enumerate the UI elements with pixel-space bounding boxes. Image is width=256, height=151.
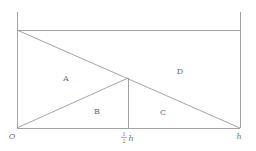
diagonal-lower-line <box>17 78 128 128</box>
region-label-d: D <box>177 67 183 76</box>
figure-outline <box>17 12 240 128</box>
midpoint-variable: h <box>128 134 133 143</box>
figure-internal-lines <box>17 30 240 128</box>
midpoint-numerator: 1 <box>122 131 125 137</box>
origin-label: O <box>9 132 16 141</box>
midpoint-label: 1 2 h <box>121 131 134 144</box>
axis-labels: O 1 2 h h <box>9 131 242 144</box>
region-labels: A B C D <box>62 67 183 117</box>
midpoint-denominator: 2 <box>122 138 125 144</box>
geometric-figure: A B C D O 1 2 h h <box>0 0 256 151</box>
endpoint-label: h <box>236 132 241 141</box>
region-label-c: C <box>160 108 166 117</box>
region-label-b: B <box>94 107 100 116</box>
region-label-a: A <box>62 74 69 83</box>
figure-canvas: A B C D O 1 2 h h <box>0 0 256 151</box>
